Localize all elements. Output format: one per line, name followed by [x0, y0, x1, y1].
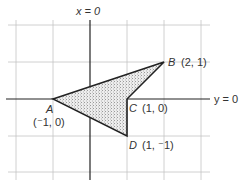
horizontal-axis-label: y = 0 — [214, 93, 238, 105]
point-C-coords: (1, 0) — [142, 102, 168, 114]
coordinate-diagram: x = 0 y = 0 A (⁻1, 0) B (2, 1) C (1, 0) … — [0, 0, 248, 187]
point-A-coords: (⁻1, 0) — [33, 116, 65, 128]
point-D-name: D — [129, 139, 137, 151]
point-B-name: B — [168, 56, 175, 68]
vertical-axis-label: x = 0 — [75, 5, 101, 17]
diagram-canvas: x = 0 y = 0 A (⁻1, 0) B (2, 1) C (1, 0) … — [0, 0, 248, 187]
point-C-name: C — [129, 102, 137, 114]
point-B-coords: (2, 1) — [181, 56, 207, 68]
point-A-name: A — [45, 103, 53, 115]
point-D-coords: (1, ⁻1) — [142, 139, 174, 151]
